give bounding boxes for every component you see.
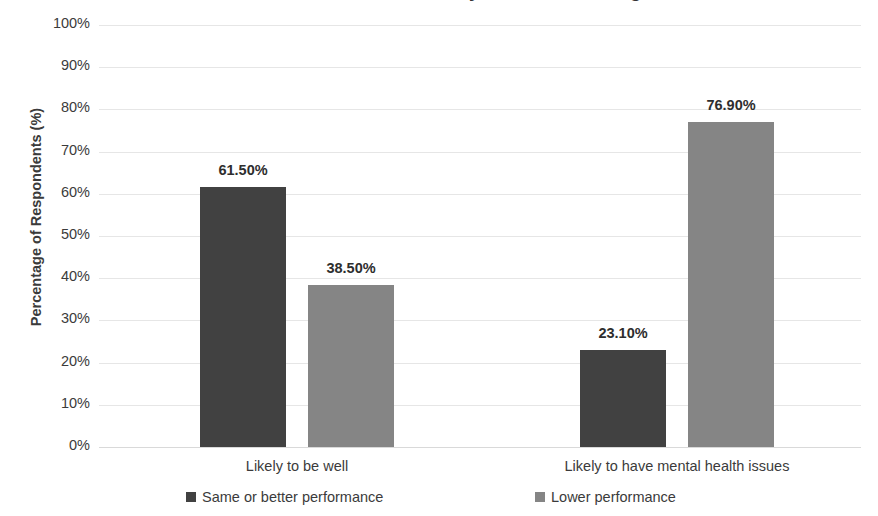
category-label: Likely to have mental health issues: [477, 458, 877, 474]
y-axis-tick-label: 80%: [20, 99, 90, 115]
category-label: Likely to be well: [97, 458, 497, 474]
legend-label: Same or better performance: [202, 489, 383, 505]
gridline: [99, 67, 861, 68]
gridline: [99, 447, 861, 448]
legend-item[interactable]: Same or better performance: [186, 489, 383, 505]
y-axis-tick-label: 30%: [20, 310, 90, 326]
y-axis-tick-label: 40%: [20, 268, 90, 284]
y-axis-tick-label: 10%: [20, 395, 90, 411]
legend-swatch-icon: [535, 492, 545, 502]
legend-item[interactable]: Lower performance: [535, 489, 676, 505]
y-axis-tick-label: 100%: [20, 15, 90, 31]
chart-title: Perceived Performance by Mental Wellbein…: [90, 0, 790, 2]
plot-area: [99, 25, 861, 447]
legend-label: Lower performance: [551, 489, 676, 505]
bar-value-label: 61.50%: [200, 162, 286, 178]
bar[interactable]: [200, 187, 286, 447]
y-axis-tick-label: 0%: [20, 437, 90, 453]
bar[interactable]: [308, 285, 394, 447]
y-axis-tick-label: 70%: [20, 142, 90, 158]
y-axis-tick-label: 60%: [20, 184, 90, 200]
bar-value-label: 38.50%: [308, 260, 394, 276]
bar-chart: Perceived Performance by Mental Wellbein…: [0, 0, 878, 516]
bar-value-label: 23.10%: [580, 325, 666, 341]
y-axis-tick-label: 20%: [20, 353, 90, 369]
bar-value-label: 76.90%: [688, 97, 774, 113]
bar[interactable]: [580, 350, 666, 447]
gridline: [99, 25, 861, 26]
legend-swatch-icon: [186, 492, 196, 502]
bar[interactable]: [688, 122, 774, 447]
y-axis-tick-label: 90%: [20, 57, 90, 73]
y-axis-tick-label: 50%: [20, 226, 90, 242]
